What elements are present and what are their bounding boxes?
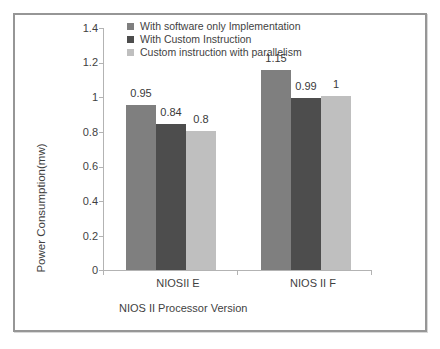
legend-label: Custom instruction with parallelism bbox=[140, 46, 302, 59]
legend-swatch-icon bbox=[127, 36, 134, 43]
x-tick-mark bbox=[237, 271, 238, 275]
legend: With software only Implementation With C… bbox=[127, 20, 302, 59]
y-tick-label: 0.2 bbox=[68, 230, 98, 243]
y-tick-label: 0 bbox=[68, 264, 98, 277]
legend-item-software-only: With software only Implementation bbox=[127, 20, 302, 33]
bar-value-label: 0.8 bbox=[181, 113, 221, 126]
legend-swatch-icon bbox=[127, 49, 134, 56]
x-tick-mark bbox=[371, 271, 372, 275]
bar-niosii-e-custom-parallelism bbox=[186, 131, 216, 270]
bar-niosii-e-custom-instruction bbox=[156, 124, 186, 270]
bar-nios-ii-f-custom-parallelism bbox=[321, 96, 351, 270]
legend-item-custom-instruction: With Custom Instruction bbox=[127, 33, 302, 46]
plot-area: 0.95 0.84 0.8 1.15 0.99 1 bbox=[103, 28, 372, 271]
legend-item-custom-parallelism: Custom instruction with parallelism bbox=[127, 46, 302, 59]
x-tick-mark bbox=[103, 271, 104, 275]
y-tick-label: 1.2 bbox=[68, 56, 98, 69]
y-tick-label: 1.4 bbox=[68, 22, 98, 35]
bar-nios-ii-f-software-only bbox=[261, 70, 291, 270]
y-tick-label: 0.6 bbox=[68, 160, 98, 173]
y-tick-label: 0.4 bbox=[68, 195, 98, 208]
y-tick-label: 0.8 bbox=[68, 126, 98, 139]
category-label-nios-ii-f: NIOS II F bbox=[246, 277, 380, 290]
y-tick-label: 1 bbox=[68, 91, 98, 104]
y-axis-title: Power Consumption(mw) bbox=[35, 143, 47, 272]
x-axis-title: NIOS II Processor Version bbox=[119, 302, 247, 314]
category-label-niosii-e: NIOSII E bbox=[111, 277, 245, 290]
legend-label: With software only Implementation bbox=[140, 20, 300, 33]
chart-screenshot: 0 0.2 0.4 0.6 0.8 1 1.2 1.4 0.95 0.84 0.… bbox=[0, 0, 440, 349]
bar-nios-ii-f-custom-instruction bbox=[291, 98, 321, 270]
bar-value-label: 0.95 bbox=[121, 87, 161, 100]
legend-swatch-icon bbox=[127, 23, 134, 30]
bar-niosii-e-software-only bbox=[126, 105, 156, 270]
legend-label: With Custom Instruction bbox=[140, 33, 251, 46]
bar-value-label: 1 bbox=[316, 78, 356, 91]
